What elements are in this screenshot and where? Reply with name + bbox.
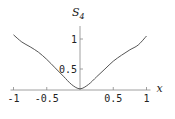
y-tick-label: 0.5 (59, 64, 77, 75)
y-axis-label: S4 (72, 6, 85, 21)
x-tick-label: 0.5 (104, 93, 122, 104)
chart: -1-0.50.51 0.51 x S4 (0, 0, 175, 119)
x-tick-label: -1 (7, 93, 19, 104)
y-axis-label-subscript: 4 (79, 12, 85, 21)
x-axis-label: x (157, 82, 164, 95)
x-tick-label: 1 (143, 93, 149, 104)
y-tick-label: 1 (71, 34, 77, 45)
x-tick-label: -0.5 (35, 93, 59, 104)
